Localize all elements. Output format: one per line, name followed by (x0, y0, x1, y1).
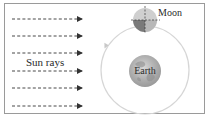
moon: Moon (131, 6, 182, 34)
earth-label: Earth (134, 65, 156, 76)
moon-label: Moon (158, 7, 182, 18)
sun-rays-label: Sun rays (26, 56, 64, 68)
earth: Earth (129, 55, 161, 87)
moon-phase-diagram: Sun rays Earth Moon (0, 0, 210, 118)
